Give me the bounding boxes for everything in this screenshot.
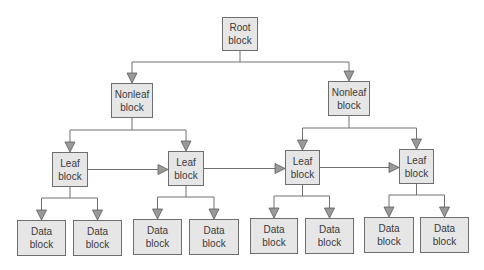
block-label: block	[318, 236, 341, 249]
data-6-block: Datablock	[305, 218, 354, 254]
block-label: Data	[263, 223, 284, 236]
data-5-block: Datablock	[250, 218, 298, 254]
block-label: block	[291, 168, 314, 181]
arrow-down-icon	[325, 208, 335, 218]
leaf-2-block: Leafblock	[168, 151, 204, 186]
block-label: block	[146, 237, 169, 250]
arrow-down-icon	[153, 209, 163, 219]
arrow-down-icon	[344, 71, 354, 81]
block-label: Data	[87, 225, 108, 238]
block-label: Nonleaf	[332, 86, 366, 99]
block-label: Data	[147, 224, 168, 237]
block-label: block	[405, 167, 428, 180]
data-8-block: Datablock	[420, 217, 469, 253]
arrow-down-icon	[181, 141, 191, 151]
nonleaf-right-block: Nonleafblock	[328, 81, 370, 116]
block-label: block	[174, 169, 197, 182]
block-label: Data	[31, 225, 52, 238]
block-label: Data	[434, 222, 455, 235]
arrow-down-icon	[269, 208, 279, 218]
data-1-block: Datablock	[17, 220, 66, 256]
block-label: Leaf	[60, 157, 79, 170]
leaf-3-block: Leafblock	[285, 150, 320, 185]
root-block: Rootblock	[222, 17, 258, 51]
block-label: Leaf	[407, 154, 426, 167]
block-label: Data	[319, 223, 340, 236]
arrow-down-icon	[37, 210, 47, 220]
arrow-down-icon	[127, 73, 137, 83]
data-4-block: Datablock	[189, 219, 239, 255]
leaf-1-block: Leafblock	[52, 152, 88, 187]
arrow-down-icon	[384, 207, 394, 217]
arrow-right-icon	[275, 164, 285, 174]
arrow-down-icon	[209, 209, 219, 219]
nonleaf-left-block: Nonleafblock	[111, 83, 153, 118]
block-label: block	[262, 236, 285, 249]
block-label: block	[202, 237, 225, 250]
block-label: Nonleaf	[115, 88, 149, 101]
block-label: block	[30, 238, 53, 251]
block-label: block	[228, 34, 251, 47]
block-label: Leaf	[176, 156, 195, 169]
arrow-right-icon	[158, 165, 168, 175]
arrow-right-icon	[389, 163, 399, 173]
block-label: block	[58, 170, 81, 183]
arrow-down-icon	[440, 207, 450, 217]
block-label: block	[337, 99, 360, 112]
block-label: block	[86, 238, 109, 251]
arrow-down-icon	[93, 210, 103, 220]
leaf-4-block: Leafblock	[399, 149, 434, 184]
block-label: Leaf	[293, 155, 312, 168]
block-label: Root	[229, 21, 250, 34]
data-7-block: Datablock	[364, 217, 414, 253]
block-label: block	[120, 101, 143, 114]
b-tree-diagram: RootblockNonleafblockNonleafblockLeafblo…	[0, 0, 484, 270]
data-2-block: Datablock	[73, 220, 122, 256]
block-label: Data	[203, 224, 224, 237]
arrow-down-icon	[298, 140, 308, 150]
data-3-block: Datablock	[133, 219, 182, 255]
arrow-down-icon	[65, 142, 75, 152]
block-label: Data	[378, 222, 399, 235]
arrow-down-icon	[412, 139, 422, 149]
block-label: block	[433, 235, 456, 248]
block-label: block	[377, 235, 400, 248]
